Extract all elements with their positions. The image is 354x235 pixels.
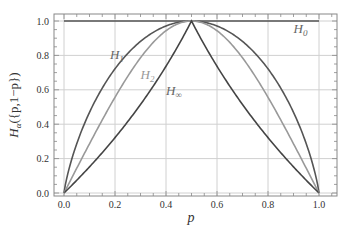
y-tick-label: 0.8 [37,50,50,61]
annotation-h2: H2 [140,67,155,84]
curve-h1 [64,21,319,193]
x-axis-label: p [187,210,195,225]
y-tick-label: 0.6 [37,84,50,95]
x-tick-label: 0.4 [160,199,173,210]
x-tick-label: 0.6 [211,199,224,210]
x-tick-label: 0.8 [262,199,275,210]
x-tick-label: 0.2 [109,199,122,210]
annotation-hinf: H∞ [165,83,182,100]
y-tick-label: 0.0 [37,188,50,199]
annotation-h1: H1 [109,47,124,64]
y-tick-label: 1.0 [37,16,50,27]
y-tick-label: 0.4 [37,119,50,130]
y-tick-labels: 0.00.20.40.60.81.0 [37,16,50,199]
x-tick-labels: 0.00.20.40.60.81.0 [58,199,326,210]
curves [64,21,319,193]
entropy-chart: 0.00.20.40.60.81.0 0.00.20.40.60.81.0 H1… [0,0,354,235]
curve-h2 [64,21,319,193]
annotation-h0: H0 [293,21,308,38]
y-tick-label: 0.2 [37,153,50,164]
curve-hinf [64,21,319,193]
y-axis-label: Hα({p,1−p}) [6,72,23,138]
x-tick-label: 1.0 [313,199,326,210]
x-tick-label: 0.0 [58,199,71,210]
